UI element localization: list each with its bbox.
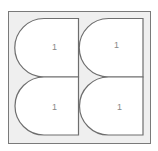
tile-diagram: 1 1 1 1 — [0, 0, 158, 151]
tile-top-right: 1 — [79, 19, 143, 78]
tile-label: 1 — [117, 102, 122, 112]
tile-bottom-left: 1 — [15, 77, 79, 135]
tile-label: 1 — [114, 40, 119, 50]
tile-label: 1 — [52, 42, 57, 52]
tile-top-left: 1 — [15, 19, 79, 78]
tile-bottom-right: 1 — [80, 77, 144, 135]
tile-label: 1 — [52, 102, 57, 112]
